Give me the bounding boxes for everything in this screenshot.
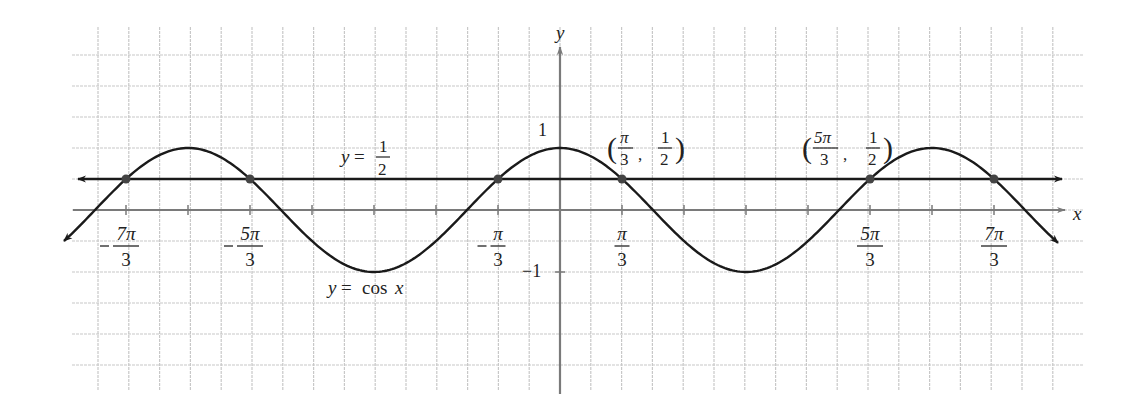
chart-plot: y x 1 −1 y = 1 2 y = cos x ( π 3 , 1 2 )… (0, 0, 1141, 417)
svg-text:y: y (339, 146, 350, 167)
y-axis-label: y (554, 22, 565, 43)
svg-text:5π: 5π (860, 223, 880, 244)
svg-text:=: = (341, 277, 352, 298)
x-tick-label: 7π3 (981, 223, 1007, 270)
svg-text:3: 3 (989, 249, 999, 270)
svg-text:π: π (620, 128, 629, 147)
svg-text:3: 3 (493, 249, 503, 270)
svg-text:1: 1 (661, 128, 670, 147)
y-tick-label-neg1: −1 (522, 261, 541, 281)
svg-text:π: π (617, 223, 627, 244)
svg-text:1: 1 (869, 128, 878, 147)
svg-text:1: 1 (379, 137, 388, 156)
svg-text:3: 3 (121, 249, 131, 270)
svg-text:3: 3 (245, 249, 255, 270)
intersection-point (866, 175, 875, 184)
x-axis-label: x (1072, 203, 1082, 224)
svg-text:2: 2 (660, 150, 669, 169)
axes (73, 47, 1065, 394)
curve-label: y = cos x (326, 277, 404, 298)
svg-text:cos: cos (362, 277, 387, 298)
svg-text:,: , (638, 145, 642, 164)
svg-text:7π: 7π (984, 223, 1004, 244)
svg-text:π: π (493, 223, 503, 244)
intersection-point (493, 175, 502, 184)
point-label-5pi-over-3: ( 5π 3 , 1 2 ) (802, 128, 893, 169)
x-tick-label: π3 (477, 223, 505, 270)
svg-text:3: 3 (865, 249, 875, 270)
intersection-point (121, 175, 130, 184)
svg-text:2: 2 (378, 160, 387, 179)
svg-text:7π: 7π (116, 223, 136, 244)
intersection-point (245, 175, 254, 184)
svg-text:3: 3 (617, 249, 627, 270)
svg-text:5π: 5π (240, 223, 260, 244)
intersection-point (618, 175, 627, 184)
svg-text:3: 3 (620, 150, 629, 169)
svg-text:): ) (675, 131, 685, 165)
svg-text:y: y (326, 277, 337, 298)
x-tick-label: 5π3 (224, 223, 263, 270)
intersection-point (990, 175, 999, 184)
svg-text:(: ( (607, 131, 617, 165)
x-tick-label: 5π3 (857, 223, 883, 270)
svg-text:=: = (354, 146, 365, 167)
svg-text:2: 2 (868, 150, 877, 169)
y-tick-label-1: 1 (538, 120, 547, 140)
x-tick-label: 7π3 (100, 223, 139, 270)
svg-text:5π: 5π (814, 128, 832, 147)
svg-text:): ) (883, 131, 893, 165)
x-tick-label: π3 (615, 223, 630, 270)
svg-text:(: ( (802, 131, 812, 165)
svg-text:,: , (843, 145, 847, 164)
line-label: y = 1 2 (339, 137, 390, 179)
svg-text:3: 3 (820, 150, 829, 169)
svg-text:x: x (394, 277, 404, 298)
x-tick-labels: 7π35π3π3π35π37π3 (100, 223, 1007, 270)
